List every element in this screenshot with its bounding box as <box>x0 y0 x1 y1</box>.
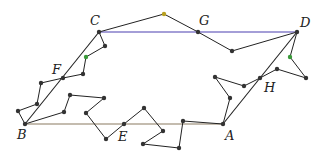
label-h: H <box>264 81 275 94</box>
vertex-dot <box>23 122 27 126</box>
label-b: B <box>17 128 27 141</box>
vertex-dot <box>221 122 225 126</box>
vertex-dot <box>181 119 185 123</box>
vertex-dot <box>102 96 106 100</box>
vertex-dot <box>230 49 234 53</box>
vertex-dot <box>295 30 299 34</box>
vertex-dot <box>242 84 246 88</box>
parallelogram-diagram <box>0 0 328 160</box>
vertex-dot <box>84 111 88 115</box>
vertex-dot <box>62 110 66 114</box>
parallelogram-edges <box>25 32 297 124</box>
label-g: G <box>199 14 209 27</box>
label-e: E <box>118 130 128 143</box>
vertex-dot <box>61 76 65 80</box>
vertex-dot <box>122 122 126 126</box>
vertex-dot <box>228 96 232 100</box>
label-a: A <box>225 129 234 142</box>
vertex-dot <box>68 93 72 97</box>
vertex-dot <box>35 102 39 106</box>
vertex-dot <box>142 106 146 110</box>
vertex-dot <box>103 44 107 48</box>
vertex-dot <box>141 142 145 146</box>
vertex-dot <box>213 75 217 79</box>
vertex-dot <box>97 30 101 34</box>
random-walk-paths <box>18 14 306 148</box>
vertex-dot <box>81 72 85 76</box>
vertex-dot <box>161 129 165 133</box>
vertex-dot <box>288 55 292 59</box>
vertex-dot <box>177 146 181 150</box>
vertex-dot <box>16 109 20 113</box>
vertex-dot <box>162 12 166 16</box>
vertex-dot <box>39 81 43 85</box>
vertex-dot <box>84 55 88 59</box>
label-c: C <box>90 14 100 27</box>
vertex-dot <box>304 76 308 80</box>
label-f: F <box>52 63 61 76</box>
vertex-dot <box>258 76 262 80</box>
vertex-dot <box>104 137 108 141</box>
label-d: D <box>300 16 310 29</box>
vertex-dot <box>275 67 279 71</box>
vertex-dot <box>196 30 200 34</box>
